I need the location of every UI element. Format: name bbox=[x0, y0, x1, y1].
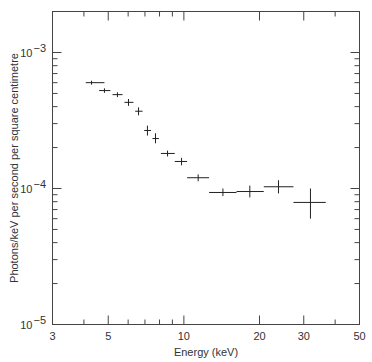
x-tick-label: 5 bbox=[105, 330, 111, 342]
y-tick-label: 10 bbox=[20, 319, 32, 331]
y-axis-ticks: 10−510−410−3 bbox=[20, 42, 359, 331]
x-tick-label: 30 bbox=[298, 330, 310, 342]
y-axis-label: Photons/keV per second per square centim… bbox=[8, 53, 20, 283]
x-tick-label: 20 bbox=[253, 330, 265, 342]
data-point bbox=[99, 88, 110, 93]
data-point bbox=[144, 126, 151, 136]
x-tick-label: 50 bbox=[353, 330, 365, 342]
data-point bbox=[161, 151, 175, 157]
y-tick-exponent: −3 bbox=[34, 42, 47, 54]
x-axis-label: Energy (keV) bbox=[174, 346, 238, 358]
data-point bbox=[187, 174, 209, 181]
y-tick-label: 10 bbox=[20, 183, 32, 195]
data-points bbox=[86, 81, 326, 219]
x-tick-label: 3 bbox=[49, 330, 55, 342]
data-point bbox=[264, 180, 294, 193]
data-point bbox=[175, 158, 187, 165]
y-tick-exponent: −5 bbox=[34, 314, 47, 326]
data-point bbox=[124, 99, 133, 106]
x-axis-ticks: 3510203050 bbox=[49, 12, 365, 342]
spectrum-chart: 3510203050 10−510−410−3 Energy (keV) Pho… bbox=[0, 0, 372, 362]
y-tick-label: 10 bbox=[20, 47, 32, 59]
data-point bbox=[135, 107, 142, 115]
data-point bbox=[293, 189, 325, 219]
plot-frame bbox=[53, 12, 360, 325]
data-point bbox=[209, 189, 236, 197]
y-tick-exponent: −4 bbox=[34, 178, 47, 190]
data-point bbox=[152, 133, 158, 143]
data-point bbox=[237, 186, 264, 198]
data-point bbox=[86, 81, 105, 85]
data-point bbox=[113, 92, 123, 97]
x-tick-label: 10 bbox=[178, 330, 190, 342]
